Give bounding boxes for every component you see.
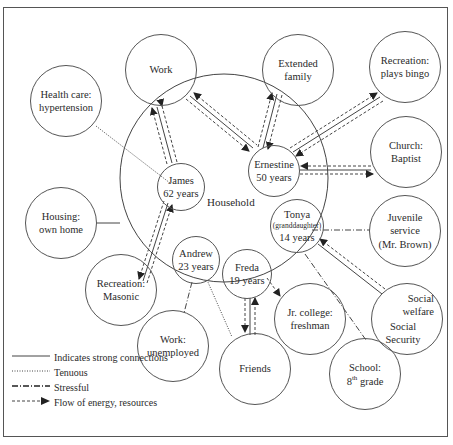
household-label: Household [207,196,255,208]
member-freda[interactable]: Freda 19 years [222,249,272,299]
member-ernestine[interactable]: Ernestine 50 years [248,145,300,197]
member-name: Andrew [179,247,213,260]
member-tonya[interactable]: Tonya (granddaughter) 14 years [270,199,324,253]
legend: Indicates strong connections Tenuous Str… [12,352,184,412]
dashdot-line-icon [12,382,50,390]
legend-item-flow: Flow of energy, resources [12,397,184,409]
system-recreation-masonic[interactable]: Recreation: Masonic [85,254,157,326]
member-detail: 14 years [279,231,314,244]
dotted-line-icon [12,367,50,375]
system-juvenile-service[interactable]: Juvenile service (Mr. Brown) [369,195,441,267]
solid-line-icon [12,352,50,360]
dashed-arrow-icon [12,397,50,405]
system-housing[interactable]: Housing: own home [25,187,97,259]
member-name: Tonya [284,208,310,221]
school-grade: 8th grade [347,374,384,388]
member-detail: 50 years [256,171,291,184]
member-detail: 19 years [229,274,264,287]
system-extended-family[interactable]: Extended family [262,34,334,106]
system-work[interactable]: Work [125,34,197,106]
system-friends[interactable]: Friends [219,333,291,405]
legend-item-tenuous: Tenuous [12,367,184,379]
member-andrew[interactable]: Andrew 23 years [172,236,220,284]
member-name: Freda [235,261,259,274]
system-school[interactable]: School: 8th grade [329,338,401,410]
system-jr-college[interactable]: Jr. college: freshman [274,283,346,355]
legend-item-stressful: Stressful [12,382,184,394]
member-detail: 62 years [163,187,198,200]
legend-item-strong: Indicates strong connections [12,352,184,364]
system-recreation-bingo[interactable]: Recreation: plays bingo [369,31,441,103]
system-health-care[interactable]: Health care: hypertension [30,65,102,137]
member-note: (granddaughter) [273,221,321,230]
system-church[interactable]: Church: Baptist [370,116,442,188]
member-name: James [168,174,194,187]
member-name: Ernestine [254,158,294,171]
member-detail: 23 years [178,260,213,273]
member-james[interactable]: James 62 years [157,163,205,211]
